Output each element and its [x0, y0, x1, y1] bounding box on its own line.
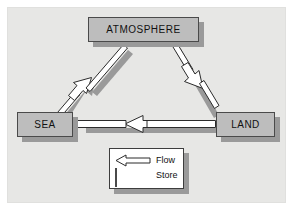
- legend-box: Flow Store: [109, 148, 184, 189]
- flow-shadow-land-to-sea: [86, 128, 216, 133]
- store-label-land: LAND: [231, 119, 260, 130]
- diagram-canvas: ATMOSPHERE SEA LAND Flow Store: [0, 0, 294, 211]
- store-swatch-icon: [115, 169, 151, 182]
- store-box-land[interactable]: LAND: [216, 112, 275, 137]
- store-label-sea: SEA: [34, 119, 56, 130]
- flow-arrow-icon: [115, 154, 151, 167]
- flow-shaft-right-horizontal: [146, 121, 216, 128]
- flow-atmosphere-to-land: [172, 42, 220, 109]
- legend-item-flow: Flow: [115, 153, 178, 168]
- legend-item-store: Store: [115, 168, 178, 183]
- store-box-atmosphere[interactable]: ATMOSPHERE: [88, 17, 199, 42]
- flow-shaft-left-horizontal: [73, 121, 126, 128]
- store-box-sea[interactable]: SEA: [17, 112, 73, 137]
- flow-sea-to-atmosphere: [58, 45, 128, 117]
- store-label-atmosphere: ATMOSPHERE: [106, 24, 180, 35]
- legend-label-flow: Flow: [156, 156, 175, 165]
- legend-label-store: Store: [156, 171, 178, 180]
